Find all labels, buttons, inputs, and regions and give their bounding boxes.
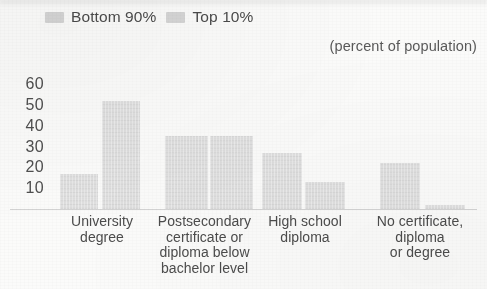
bar-bottom-90 <box>60 174 98 209</box>
x-axis-category-line: bachelor level <box>152 261 257 277</box>
bar-top-10 <box>305 182 345 209</box>
x-axis-category-line: diploma <box>257 230 353 246</box>
bar-top-10 <box>102 101 140 209</box>
legend-swatch-top-10-icon <box>166 12 185 23</box>
x-axis-category-line: University <box>52 214 152 230</box>
x-axis-category-line: diploma below <box>152 245 257 261</box>
x-axis-category-line: degree <box>52 230 152 246</box>
bar-bottom-90 <box>380 163 420 209</box>
legend-swatch-bottom-90-icon <box>45 12 64 23</box>
x-axis-category-line: or degree <box>360 245 480 261</box>
x-axis-category-label: Postsecondarycertificate ordiploma below… <box>152 214 257 276</box>
x-axis-baseline <box>10 209 477 210</box>
legend-label-top-10: Top 10% <box>192 8 253 26</box>
legend-label-bottom-90: Bottom 90% <box>71 8 156 26</box>
x-axis-category-label: High schooldiploma <box>257 214 353 245</box>
x-axis-labels: UniversitydegreePostsecondarycertificate… <box>0 214 487 289</box>
chart-legend: Bottom 90% Top 10% <box>45 7 253 27</box>
x-axis-category-line: No certificate, <box>360 214 480 230</box>
x-axis-category-line: diploma <box>360 230 480 246</box>
chart-subtitle: (percent of population) <box>330 38 477 54</box>
x-axis-category-line: certificate or <box>152 230 257 246</box>
x-axis-category-line: Postsecondary <box>152 214 257 230</box>
x-axis-category-label: No certificate,diplomaor degree <box>360 214 480 261</box>
legend-entry-top-10[interactable]: Top 10% <box>166 8 253 26</box>
bar-bottom-90 <box>262 153 302 209</box>
x-axis-category-line: High school <box>257 214 353 230</box>
bar-bottom-90 <box>165 136 208 209</box>
x-axis-category-label: Universitydegree <box>52 214 152 245</box>
legend-entry-bottom-90[interactable]: Bottom 90% <box>45 8 156 26</box>
bar-top-10 <box>210 136 253 209</box>
